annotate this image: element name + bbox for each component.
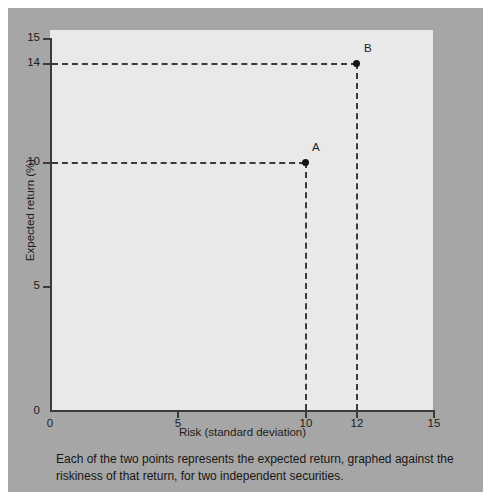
figure-caption: Each of the two points represents the ex…: [56, 451, 456, 485]
y-tick-5: [43, 286, 50, 288]
data-point-label-b: B: [364, 42, 372, 54]
y-axis-title: Expected return (%): [24, 140, 36, 280]
y-tick-label-15: 15: [14, 31, 40, 43]
guide-line-vertical-a: [305, 162, 307, 410]
x-axis-title: Risk (standard deviation): [50, 426, 435, 438]
y-tick-label-0: 0: [14, 404, 40, 416]
y-tick-label-5: 5: [14, 279, 40, 291]
y-tick-15: [43, 38, 50, 40]
figure-frame: 15 14 10 5 0 0 5 10 12 15 Expected retur…: [8, 8, 483, 492]
guide-line-horizontal-b: [52, 63, 357, 65]
y-axis-line: [50, 38, 52, 410]
y-tick-label-14: 14: [14, 56, 40, 68]
y-tick-14: [43, 63, 50, 65]
plot-area: [50, 30, 433, 410]
guide-line-horizontal-a: [52, 162, 305, 164]
guide-line-vertical-b: [356, 63, 358, 410]
data-point-a[interactable]: [302, 159, 309, 166]
x-axis-line: [50, 410, 435, 412]
data-point-b[interactable]: [353, 60, 360, 67]
y-tick-10: [43, 162, 50, 164]
data-point-label-a: A: [312, 141, 320, 153]
